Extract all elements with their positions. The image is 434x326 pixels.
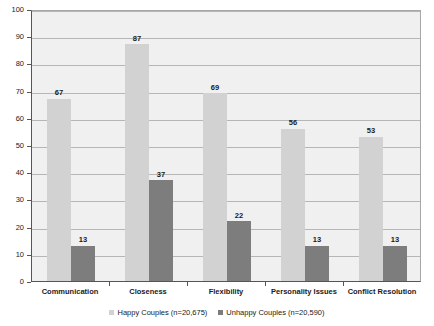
x-category-label: Communication [42, 288, 99, 296]
bar-value-label: 13 [391, 236, 399, 244]
gridline [32, 65, 420, 66]
bar-happy: 69 [203, 93, 227, 281]
y-tick-label: 40 [16, 169, 24, 177]
x-tick-mark [343, 282, 344, 286]
bar-happy: 56 [281, 129, 305, 281]
bar-unhappy: 13 [71, 246, 95, 281]
bar-value-label: 87 [133, 35, 141, 43]
x-category-label: Personality Issues [271, 288, 337, 296]
bar-value-label: 22 [235, 212, 243, 220]
x-tick-mark [109, 282, 110, 286]
bar-value-label: 69 [211, 84, 219, 92]
x-category-label: Flexibility [209, 288, 244, 296]
legend-swatch-icon [109, 310, 114, 315]
x-tick-mark [187, 282, 188, 286]
bar-value-label: 53 [367, 127, 375, 135]
y-tick-label: 10 [16, 251, 24, 259]
bar-value-label: 13 [313, 236, 321, 244]
bar-chart: 0102030405060708090100 67138737692256135… [0, 0, 434, 326]
bar-unhappy: 37 [149, 180, 173, 281]
bar-value-label: 13 [79, 236, 87, 244]
y-tick-label: 0 [20, 278, 24, 286]
gridline [32, 38, 420, 39]
bar-unhappy: 22 [227, 221, 251, 281]
bar-unhappy: 13 [383, 246, 407, 281]
x-axis: CommunicationClosenessFlexibilityPersona… [31, 282, 421, 304]
x-category-label: Closeness [129, 288, 167, 296]
y-tick-label: 90 [16, 33, 24, 41]
legend-item: Unhappy Couples (n=20,590) [218, 309, 324, 317]
bar-happy: 87 [125, 44, 149, 281]
bar-value-label: 56 [289, 119, 297, 127]
legend-swatch-icon [218, 310, 223, 315]
bar-happy: 67 [47, 99, 71, 281]
y-tick-label: 30 [16, 197, 24, 205]
y-axis: 0102030405060708090100 [0, 0, 31, 292]
legend-label: Unhappy Couples (n=20,590) [226, 309, 324, 317]
plot-area: 67138737692256135313 [31, 10, 421, 282]
y-tick-label: 70 [16, 88, 24, 96]
y-tick-label: 60 [16, 115, 24, 123]
y-tick-label: 100 [11, 6, 24, 14]
y-tick-label: 20 [16, 224, 24, 232]
legend-item: Happy Couples (n=20,675) [109, 309, 207, 317]
chart-legend: Happy Couples (n=20,675)Unhappy Couples … [0, 309, 434, 317]
bar-unhappy: 13 [305, 246, 329, 281]
legend-label: Happy Couples (n=20,675) [117, 309, 207, 317]
x-tick-mark [265, 282, 266, 286]
bar-value-label: 67 [55, 89, 63, 97]
bar-value-label: 37 [157, 171, 165, 179]
y-tick-label: 50 [16, 142, 24, 150]
x-category-label: Conflict Resolution [348, 288, 417, 296]
y-tick-label: 80 [16, 61, 24, 69]
bar-happy: 53 [359, 137, 383, 281]
gridline [32, 11, 420, 12]
